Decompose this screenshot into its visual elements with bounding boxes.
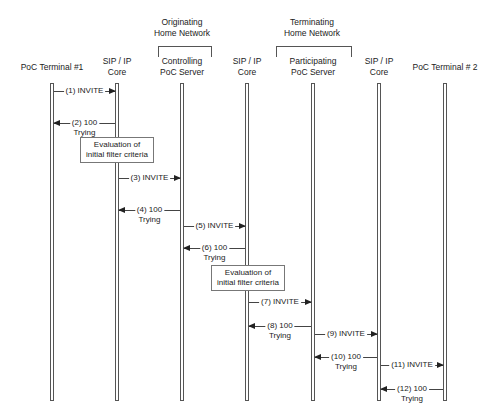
participant-label: PoC Terminal # 2 — [412, 62, 477, 73]
message-label: (8) 100 Trying — [265, 321, 294, 341]
participant-poc-terminal-2: PoC Terminal # 2 — [412, 62, 477, 73]
group-label-line1: Originating — [154, 17, 210, 28]
message-label-line1: (8) 100 — [267, 321, 292, 331]
participant-label-line2: PoC Server — [290, 67, 337, 78]
participant-label-line2: Core — [103, 67, 132, 78]
message-label-line1: (4) 100 — [137, 205, 162, 215]
note-line2: initial filter criteria — [215, 278, 281, 288]
lifeline-poc-terminal-1 — [50, 83, 54, 401]
message-label: (10) 100 Trying — [329, 352, 363, 372]
participant-sip-ip-core-1: SIP / IP Core — [103, 56, 132, 78]
arrow-right-icon — [109, 88, 116, 94]
lifeline-poc-terminal-2 — [443, 83, 447, 401]
group-label-line1: Terminating — [284, 17, 340, 28]
arrow-left-icon — [314, 354, 321, 360]
message-label-line1: (10) 100 — [331, 352, 361, 362]
participant-label-line2: PoC Server — [160, 67, 204, 78]
group-label-line2: Home Network — [154, 28, 210, 39]
arrow-right-icon — [239, 223, 246, 229]
lifeline-sip-ip-core-2 — [245, 83, 249, 401]
message-label: (2) 100 Trying — [70, 118, 99, 138]
participant-label-line1: Controlling — [160, 56, 204, 67]
message-label: (5) INVITE — [194, 221, 236, 231]
message-label: (11) INVITE — [389, 360, 435, 370]
message-label-line1: (6) 100 — [202, 243, 227, 253]
participant-label-line1: SIP / IP — [365, 56, 394, 67]
note-evaluation-filter-criteria-1: Evaluation of initial filter criteria — [80, 137, 154, 163]
participant-label-line1: SIP / IP — [233, 56, 262, 67]
message-label-line2: Trying — [202, 253, 227, 263]
message-label: (7) INVITE — [259, 297, 301, 307]
participant-sip-ip-core-2: SIP / IP Core — [233, 56, 262, 78]
message-label-line2: Trying — [397, 394, 427, 404]
note-line1: Evaluation of — [84, 140, 150, 150]
participant-controlling-poc-server: Controlling PoC Server — [160, 56, 204, 78]
lifeline-sip-ip-core-1 — [115, 83, 119, 401]
message-label: (3) INVITE — [129, 173, 171, 183]
participant-poc-terminal-1: PoC Terminal #1 — [21, 62, 84, 73]
arrow-right-icon — [437, 362, 444, 368]
note-evaluation-filter-criteria-2: Evaluation of initial filter criteria — [211, 265, 285, 291]
participant-label-line2: Core — [233, 67, 262, 78]
message-label: (4) 100 Trying — [135, 205, 164, 225]
note-line2: initial filter criteria — [84, 150, 150, 160]
message-label: (9) INVITE — [325, 329, 367, 339]
participant-label: PoC Terminal #1 — [21, 62, 84, 73]
arrow-right-icon — [371, 331, 378, 337]
participant-sip-ip-core-3: SIP / IP Core — [365, 56, 394, 78]
message-label: (1) INVITE — [64, 86, 106, 96]
participant-label-line2: Core — [365, 67, 394, 78]
arrow-left-icon — [248, 323, 255, 329]
message-label: (12) 100 Trying — [395, 384, 429, 404]
group-originating-home-network: Originating Home Network — [154, 17, 210, 39]
message-label-line2: Trying — [137, 215, 162, 225]
lifeline-controlling-poc-server — [180, 83, 184, 401]
participant-participating-poc-server: Participating PoC Server — [290, 56, 337, 78]
message-label-line2: Trying — [267, 331, 292, 341]
group-terminating-home-network: Terminating Home Network — [284, 17, 340, 39]
participant-label-line1: SIP / IP — [103, 56, 132, 67]
note-line1: Evaluation of — [215, 268, 281, 278]
arrow-right-icon — [174, 175, 181, 181]
message-label-line2: Trying — [331, 362, 361, 372]
group-label-line2: Home Network — [284, 28, 340, 39]
arrow-right-icon — [305, 299, 312, 305]
arrow-left-icon — [380, 386, 387, 392]
lifeline-sip-ip-core-3 — [377, 83, 381, 401]
participant-label-line1: Participating — [290, 56, 337, 67]
message-label-line1: (2) 100 — [72, 118, 97, 128]
message-label: (6) 100 Trying — [200, 243, 229, 263]
message-label-line1: (12) 100 — [397, 384, 427, 394]
arrow-left-icon — [183, 245, 190, 251]
arrow-left-icon — [118, 207, 125, 213]
arrow-left-icon — [53, 120, 60, 126]
sequence-diagram: Originating Home Network Terminating Hom… — [0, 0, 500, 420]
